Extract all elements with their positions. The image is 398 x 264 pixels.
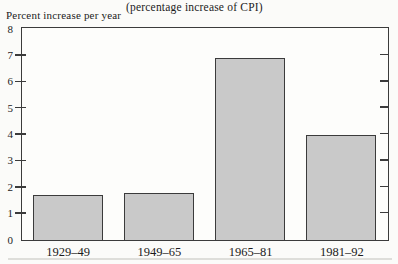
y-tick-label: 3	[0, 153, 13, 167]
y-axis-tick-right	[380, 159, 388, 161]
bar-1981–92	[306, 135, 376, 241]
y-axis-tick-right	[380, 80, 388, 82]
cpi-bar-chart-figure: Percent increase per year (percentage in…	[0, 0, 398, 264]
y-axis-tick-left	[15, 81, 26, 83]
y-axis-tick-left	[15, 133, 26, 135]
y-axis-tick-left	[15, 107, 26, 109]
y-axis-tick-left	[15, 186, 26, 188]
y-axis-tick-right	[380, 106, 388, 108]
y-axis-tick-left	[15, 160, 26, 162]
y-axis-tick-right	[380, 212, 388, 214]
x-tick-label: 1981–92	[302, 245, 382, 260]
x-tick-label: 1949–65	[119, 245, 199, 260]
y-axis-caption: Percent increase per year	[6, 9, 121, 21]
y-tick-label: 1	[0, 206, 13, 220]
y-tick-label: 6	[0, 74, 13, 88]
chart-title: (percentage increase of CPI)	[126, 1, 263, 13]
y-tick-label: 0	[0, 233, 13, 247]
x-tick-label: 1965–81	[211, 245, 291, 260]
y-axis-tick-right	[380, 133, 388, 135]
y-axis-tick-left	[15, 54, 26, 56]
y-tick-label: 2	[0, 180, 13, 194]
bar-1965–81	[215, 58, 285, 240]
y-tick-label: 8	[0, 22, 13, 36]
y-tick-label: 7	[0, 48, 13, 62]
plot-area	[21, 27, 389, 241]
y-tick-label: 4	[0, 127, 13, 141]
bar-1949–65	[124, 193, 194, 240]
y-tick-label: 5	[0, 101, 13, 115]
x-tick-label: 1929–49	[28, 245, 108, 260]
y-axis-tick-right	[380, 186, 388, 188]
bar-1929–49	[33, 195, 103, 240]
y-axis-tick-right	[380, 54, 388, 56]
y-axis-tick-left	[15, 212, 26, 214]
